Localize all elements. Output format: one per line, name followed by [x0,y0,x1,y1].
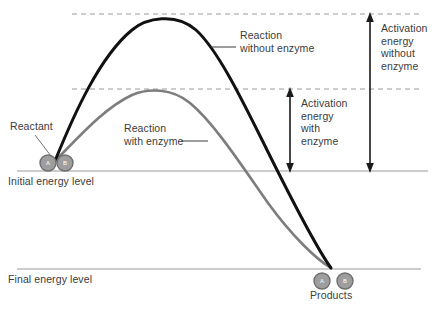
activation-energy-with-enzyme-arrow [286,87,294,173]
activation-energy-with-enzyme-label: Activation energy with enzyme [301,97,348,147]
reaction-without-enzyme-label: Reaction without enzyme [240,29,314,54]
reactant-molecule-a-letter: A [46,160,50,166]
reaction-with-enzyme-label: Reaction with enzyme [124,122,183,147]
reactant-leader-line [35,135,51,156]
activation-energy-without-enzyme-label: Activation energy without enzyme [381,22,428,72]
reactant-label: Reactant [10,120,53,133]
reactant-molecule-b: B [57,155,73,171]
activation-energy-without-enzyme-arrow [366,12,374,173]
diagram-canvas: A B A B Reactant Initial energy level Fi… [0,0,442,321]
initial-energy-level-label: Initial energy level [8,175,94,188]
product-molecule-b: B [337,273,353,289]
product-molecule-a-letter: A [320,278,324,284]
product-molecule-a: A [314,273,330,289]
products-label: Products [310,289,352,302]
reactant-molecule-a: A [40,155,56,171]
reactant-molecule-b-letter: B [63,160,67,166]
final-energy-level-label: Final energy level [8,273,92,286]
product-molecule-b-letter: B [343,278,347,284]
